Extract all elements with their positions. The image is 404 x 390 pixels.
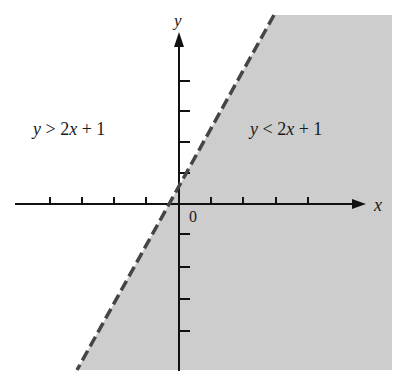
region-label-below: y < 2x + 1	[248, 119, 322, 139]
x-axis-label: x	[373, 195, 382, 215]
inequality-graph: y x 0 y > 2x + 1 y < 2x + 1	[0, 0, 404, 390]
y-axis-arrow-icon	[174, 32, 184, 47]
origin-label: 0	[189, 208, 197, 225]
shaded-region	[77, 15, 392, 370]
y-axis-label: y	[172, 11, 182, 30]
region-label-above: y > 2x + 1	[31, 119, 105, 139]
